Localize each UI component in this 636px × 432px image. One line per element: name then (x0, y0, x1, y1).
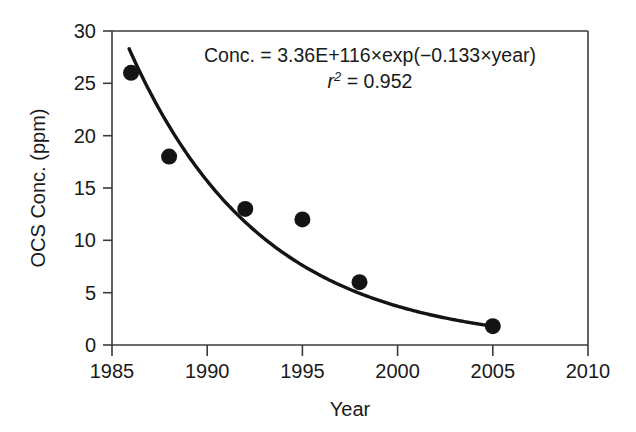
y-ticklabel-20: 20 (74, 125, 96, 147)
fit-equation-annotation: Conc. = 3.36E+116×exp(−0.133×year) r2 = … (204, 44, 536, 92)
y-ticklabel-15: 15 (74, 177, 96, 199)
equation-times-1: × (371, 44, 382, 66)
x-ticklabel-1985: 1985 (90, 360, 135, 382)
x-axis-tick-labels: 1985 1990 1995 2000 2005 2010 (90, 360, 611, 382)
data-point (123, 65, 139, 81)
y-ticklabel-30: 30 (74, 20, 96, 42)
data-points-layer (123, 65, 501, 334)
r-squared-value: = 0.952 (341, 70, 412, 92)
data-point (294, 211, 310, 227)
y-axis-ticks (103, 31, 112, 345)
data-point (237, 201, 253, 217)
exponential-fit-curve (129, 49, 493, 326)
y-ticklabel-25: 25 (74, 72, 96, 94)
x-ticklabel-2000: 2000 (375, 360, 420, 382)
equation-times-2: × (480, 44, 491, 66)
x-ticklabel-1995: 1995 (280, 360, 325, 382)
data-point (485, 318, 501, 334)
data-point (352, 274, 368, 290)
equation-suffix: year) (492, 44, 536, 66)
equation-line-2: r2 = 0.952 (328, 69, 413, 92)
x-ticklabel-1990: 1990 (185, 360, 230, 382)
x-ticklabel-2005: 2005 (471, 360, 516, 382)
y-axis-tick-labels: 0 5 10 15 20 25 30 (74, 20, 96, 356)
y-ticklabel-10: 10 (74, 229, 96, 251)
equation-prefix: Conc. = 3.36E+116 (204, 44, 371, 66)
x-axis-ticks (112, 345, 588, 356)
x-ticklabel-2010: 2010 (566, 360, 611, 382)
equation-line-1: Conc. = 3.36E+116×exp(−0.133×year) (204, 44, 536, 66)
y-ticklabel-5: 5 (85, 282, 96, 304)
y-axis-title: OCS Conc. (ppm) (27, 109, 49, 268)
chart-figure: 0 5 10 15 20 25 30 1985 1990 1995 2000 2… (0, 0, 636, 432)
ocs-concentration-scatter-chart: 0 5 10 15 20 25 30 1985 1990 1995 2000 2… (0, 0, 636, 432)
y-ticklabel-0: 0 (85, 334, 96, 356)
x-axis-title: Year (330, 398, 371, 420)
data-point (161, 149, 177, 165)
equation-mid: exp(−0.133 (382, 44, 480, 66)
